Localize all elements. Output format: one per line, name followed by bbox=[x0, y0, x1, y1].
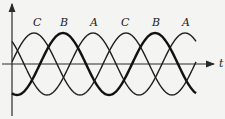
axis-label-t: t bbox=[219, 57, 224, 70]
peak-label-c-2: C bbox=[121, 16, 130, 29]
peak-label-a-1: A bbox=[89, 16, 98, 29]
peak-label-c-1: C bbox=[33, 16, 42, 29]
peak-label-a-2: A bbox=[181, 16, 190, 29]
peak-label-b-2: B bbox=[151, 16, 160, 29]
peak-label-b-1: B bbox=[59, 16, 68, 29]
three-phase-diagram: t C B A C B A bbox=[0, 0, 225, 119]
